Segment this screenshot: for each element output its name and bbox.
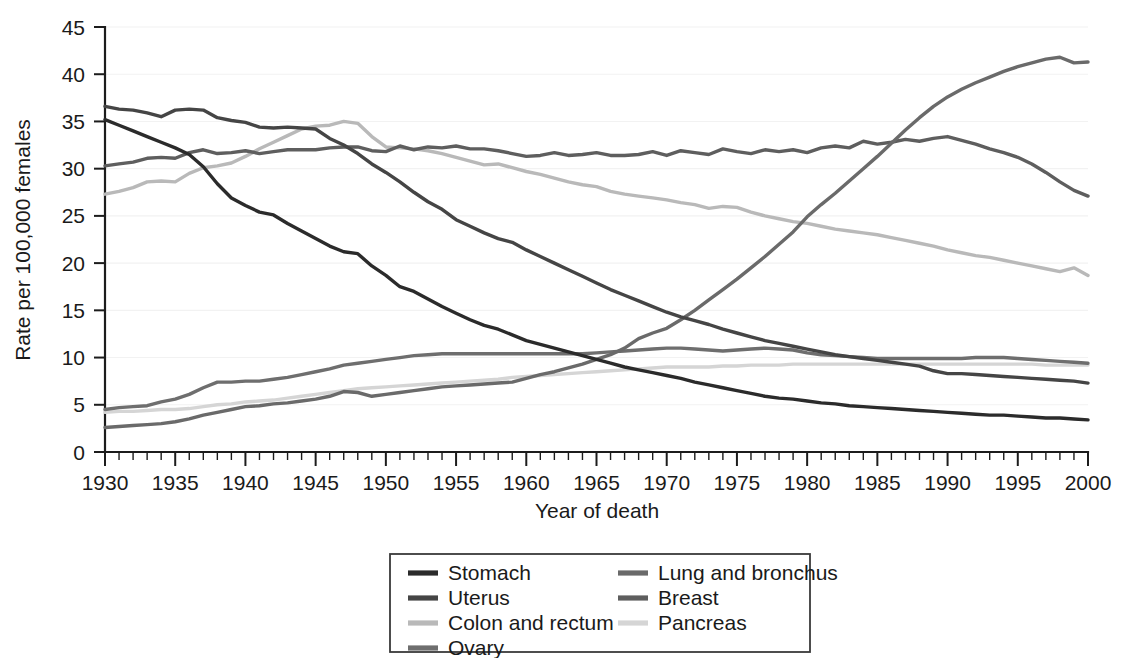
legend-label-uterus: Uterus [448,586,510,609]
y-tick-label: 5 [73,393,85,416]
legend-label-colon-and-rectum: Colon and rectum [448,611,614,634]
x-tick-label: 1940 [222,471,269,494]
x-axis-title: Year of death [535,499,659,522]
series-line-uterus [105,106,1088,383]
x-tick-label: 1985 [854,471,901,494]
x-tick-label: 1950 [362,471,409,494]
x-tick-label: 2000 [1065,471,1112,494]
chart-figure: 051015202530354045 193019351940194519501… [0,0,1125,658]
line-chart: 051015202530354045 193019351940194519501… [0,0,1125,658]
x-tick-label: 1935 [152,471,199,494]
y-tick-label: 35 [62,110,85,133]
legend-label-stomach: Stomach [448,561,531,584]
y-tick-label: 10 [62,346,85,369]
y-tick-label: 20 [62,252,85,275]
legend: StomachUterusColon and rectumOvaryLung a… [390,554,838,658]
x-tick-label: 1960 [503,471,550,494]
legend-label-pancreas: Pancreas [658,611,747,634]
legend-label-breast: Breast [658,586,719,609]
y-tick-label: 25 [62,204,85,227]
y-tick-label: 15 [62,299,85,322]
x-tick-label: 1980 [784,471,831,494]
x-tick-label: 1970 [643,471,690,494]
x-axis: 1930193519401945195019551960196519701975… [82,452,1112,494]
legend-label-ovary: Ovary [448,636,505,658]
x-tick-label: 1930 [82,471,129,494]
y-axis-title: Rate per 100,000 females [11,119,34,361]
y-tick-label: 0 [73,441,85,464]
x-tick-label: 1990 [924,471,971,494]
x-tick-label: 1995 [994,471,1041,494]
series-line-stomach [105,120,1088,420]
grid-lines [105,27,1088,405]
y-tick-label: 45 [62,16,85,39]
x-tick-label: 1975 [714,471,761,494]
data-series-group [105,57,1088,427]
series-line-colon-and-rectum [105,121,1088,275]
y-tick-label: 40 [62,63,85,86]
legend-label-lung-and-bronchus: Lung and bronchus [658,561,838,584]
x-tick-label: 1955 [433,471,480,494]
x-tick-label: 1965 [573,471,620,494]
x-tick-label: 1945 [292,471,339,494]
y-tick-label: 30 [62,157,85,180]
y-axis: 051015202530354045 [62,16,105,464]
